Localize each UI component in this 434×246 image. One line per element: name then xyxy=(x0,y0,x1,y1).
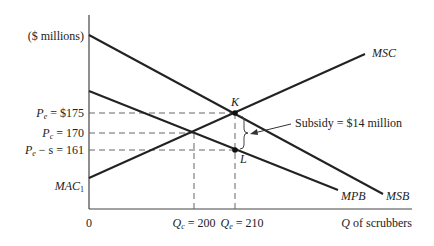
y-axis-label: ($ millions) xyxy=(28,29,84,43)
tick-pe: Pe = $175 xyxy=(35,106,84,121)
mpb-curve xyxy=(89,91,338,190)
origin-label: 0 xyxy=(86,216,92,230)
msb-label: MSB xyxy=(385,189,410,203)
subsidy-arrow-head xyxy=(250,129,258,135)
mac-label: MAC1 xyxy=(54,179,84,194)
tick-pes: Pe − s = 161 xyxy=(24,143,84,158)
subsidy-annotation: Subsidy = $14 million xyxy=(295,116,402,130)
point-l xyxy=(232,147,238,153)
point-k-label: K xyxy=(230,95,240,109)
msc-label: MSC xyxy=(371,46,397,60)
mpb-label: MPB xyxy=(340,189,366,203)
tick-qc: Qc = 200 xyxy=(172,216,215,231)
point-k xyxy=(232,110,238,116)
x-axis-label: Q of scrubbers xyxy=(341,216,412,230)
guide-lines xyxy=(89,113,235,209)
tick-qe: Qe = 210 xyxy=(220,216,263,231)
subsidy-arrow-line xyxy=(254,124,291,133)
tick-pc: Pc = 170 xyxy=(41,126,84,141)
point-l-label: L xyxy=(239,152,247,166)
scrubber-subsidy-diagram: ($ millions) Pe = $175 Pc = 170 Pe − s =… xyxy=(0,0,434,246)
